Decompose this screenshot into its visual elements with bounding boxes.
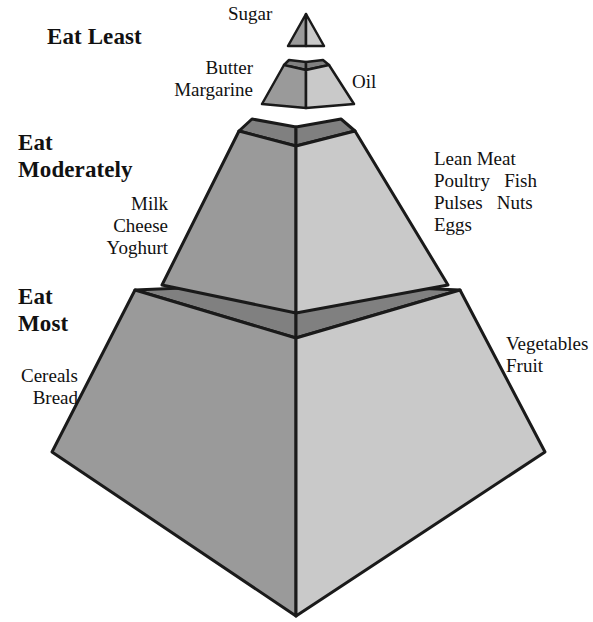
heading-eat-most-line1: Eat <box>18 284 53 309</box>
apex-face-left <box>288 14 306 46</box>
label-butter-margarine: Butter Margarine <box>53 57 253 101</box>
base-face-left <box>52 290 296 616</box>
label-protein: Lean Meat Poultry Fish Pulses Nuts Eggs <box>434 148 537 236</box>
label-dairy: Milk Cheese Yoghurt <box>0 193 168 259</box>
pyramid-tier-base <box>52 286 545 616</box>
heading-eat-moderately-line2: Moderately <box>18 157 133 182</box>
label-oil: Oil <box>352 71 376 93</box>
heading-eat-least: Eat Least <box>47 24 142 51</box>
fats-face-left <box>262 65 306 108</box>
pyramid-tier-fats <box>262 60 354 108</box>
heading-eat-moderately: EatModerately <box>18 130 133 183</box>
heading-eat-moderately-line1: Eat <box>18 130 53 155</box>
label-cereals-bread: Cereals Bread <box>0 365 78 409</box>
food-pyramid-diagram: Eat Least EatModerately EatMost Sugar Bu… <box>0 0 593 622</box>
apex-face-right <box>306 14 324 46</box>
pyramid-tier-moderate <box>162 119 448 313</box>
pyramid-tier-apex <box>288 14 324 46</box>
label-sugar: Sugar <box>228 3 272 25</box>
moderate-face-left <box>162 131 296 313</box>
heading-eat-most: EatMost <box>18 284 68 337</box>
label-vegetables-fruit: Vegetables Fruit <box>506 333 588 377</box>
moderate-face-right <box>296 131 448 313</box>
fats-face-right <box>306 65 354 108</box>
heading-eat-most-line2: Most <box>18 311 68 336</box>
